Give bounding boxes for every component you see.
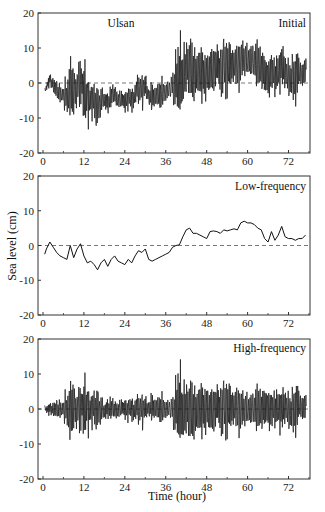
x-tick-label: 24 — [119, 155, 131, 167]
x-tick-label: 24 — [119, 317, 131, 329]
x-tick-label: 72 — [283, 481, 294, 493]
x-tick-label: 24 — [119, 481, 131, 493]
x-tick-label: 60 — [242, 317, 254, 329]
x-tick-label: 0 — [40, 481, 46, 493]
y-tick-label: 0 — [29, 403, 35, 415]
x-tick-label: 12 — [78, 317, 89, 329]
x-tick-label: 36 — [160, 155, 172, 167]
data-series-line — [45, 359, 307, 440]
y-tick-label: 20 — [23, 7, 35, 19]
y-tick-label: -20 — [19, 147, 34, 159]
figure: -20-10010200122436486072InitialUlsan -20… — [0, 0, 325, 512]
panel-title-high-frequency: High-frequency — [233, 342, 306, 355]
panel-title-initial: Initial — [279, 17, 306, 29]
y-tick-label: -10 — [19, 112, 34, 124]
x-tick-label: 36 — [160, 317, 172, 329]
y-tick-label: 10 — [23, 368, 35, 380]
x-tick-label: 72 — [283, 317, 294, 329]
y-tick-label: 0 — [29, 240, 35, 252]
station-label: Ulsan — [108, 17, 135, 29]
y-tick-label: -20 — [19, 473, 34, 485]
data-series-line — [45, 30, 307, 129]
x-axis-title: Time (hour) — [148, 489, 206, 503]
panel-low-frequency: -20-10010200122436486072Low-frequency — [19, 170, 310, 329]
x-tick-label: 60 — [242, 155, 254, 167]
x-tick-label: 48 — [201, 155, 213, 167]
x-tick-label: 72 — [283, 155, 294, 167]
y-tick-label: -10 — [19, 438, 34, 450]
y-tick-label: -10 — [19, 274, 34, 286]
y-tick-label: 20 — [23, 170, 35, 182]
y-tick-label: 20 — [23, 333, 35, 345]
y-axis-title: Sea level (cm) — [5, 211, 19, 280]
panel-initial: -20-10010200122436486072InitialUlsan — [19, 7, 310, 167]
y-tick-label: -20 — [19, 309, 34, 321]
x-tick-label: 12 — [78, 155, 89, 167]
x-tick-label: 0 — [40, 155, 46, 167]
y-tick-label: 10 — [23, 205, 35, 217]
panel-title-low-frequency: Low-frequency — [235, 180, 306, 193]
x-tick-label: 0 — [40, 317, 46, 329]
x-tick-label: 60 — [242, 481, 254, 493]
y-tick-label: 10 — [23, 42, 35, 54]
x-tick-label: 12 — [78, 481, 89, 493]
x-tick-label: 48 — [201, 317, 213, 329]
panel-high-frequency: -20-10010200122436486072High-frequency — [19, 333, 310, 493]
y-tick-label: 0 — [29, 77, 35, 89]
